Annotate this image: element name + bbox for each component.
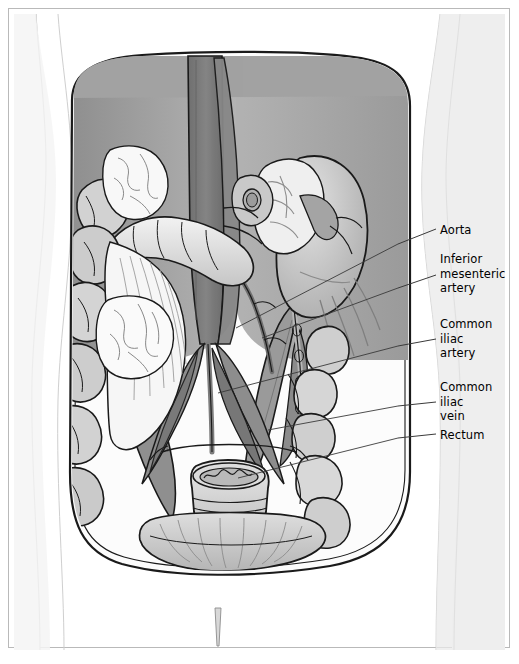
label-common-iliac-artery: Common iliac artery [440, 317, 492, 361]
probe-marker [215, 608, 221, 646]
label-aorta: Aorta [440, 223, 472, 238]
label-inferior-mesenteric-artery: Inferior mesenteric artery [440, 252, 505, 296]
label-common-iliac-vein: Common iliac vein [440, 380, 492, 424]
illustration-page: Aorta Inferior mesenteric artery Common … [0, 0, 519, 664]
label-rectum: Rectum [440, 428, 484, 443]
